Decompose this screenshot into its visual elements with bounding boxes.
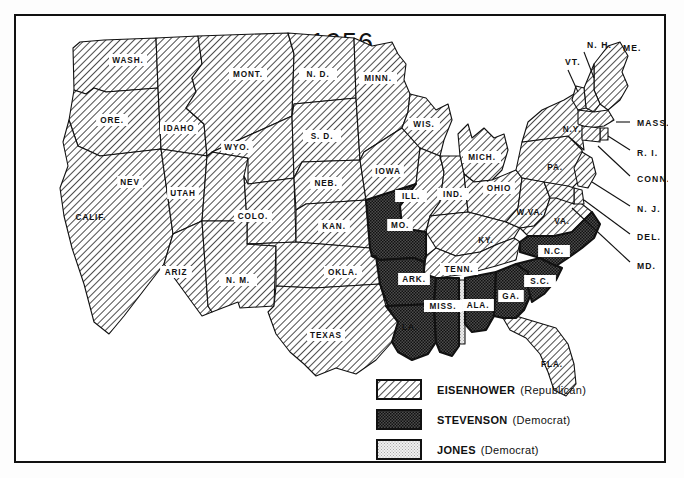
state-label-text: LA. [402,323,418,332]
state-label-text: WIS. [413,120,434,129]
state-label-pa: PA. [547,163,563,172]
legend-swatch-jones [377,440,421,459]
state-del[interactable] [574,188,584,204]
state-label-okla: OKLA. [324,266,362,278]
state-label-text: N.Y. [563,125,582,134]
state-miss[interactable] [434,278,459,356]
state-label-text: KAN. [322,222,346,231]
legend-candidate: JONES [437,443,476,455]
legend-row-jones[interactable]: JONES(Democrat) [377,440,539,459]
callout-label-nj: N. J. [637,204,661,214]
legend-party: (Republican) [520,383,586,395]
legend-candidate: STEVENSON [437,413,508,425]
state-label-iowa: IOWA [372,165,404,177]
state-label-text: UTAH [170,189,196,198]
state-label-la: LA. [402,323,418,332]
state-label-text: OKLA. [328,268,358,277]
state-label-ariz: ARIZ [160,266,192,278]
state-label-mich: MICH. [463,151,501,163]
legend-candidate: EISENHOWER [437,383,515,395]
state-label-ark: ARK. [398,273,430,285]
state-label-text: MICH. [468,153,496,162]
state-label-nm: N. M. [219,274,257,286]
state-label-text: S.C. [530,277,550,286]
state-label-neb: NEB. [310,177,342,189]
state-label-text: ALA. [467,301,490,310]
state-label-text: TEXAS [310,331,342,340]
callout-label-md: MD. [637,261,656,271]
state-label-nc: N.C. [538,245,570,257]
state-mass[interactable] [578,110,614,128]
state-label-text: WASH. [112,56,143,65]
state-label-text: IND. [443,190,463,199]
state-label-mo: MO. [387,219,413,231]
state-label-texas: TEXAS [307,329,345,341]
state-label-calif: CALIF. [76,213,107,222]
state-label-text: ARK. [402,275,426,284]
legend-row-eisenhower[interactable]: EISENHOWER(Republican) [377,380,586,399]
state-label-text: COLO. [238,212,268,221]
callout-line-nj [592,182,630,206]
state-label-text: OHIO [487,184,512,193]
state-label-text: S. D. [311,132,334,141]
legend-label-jones: JONES(Democrat) [437,443,539,455]
callout-label-nh: N. H. [587,40,612,50]
state-label-nd: N. D. [299,68,337,80]
state-label-va: VA. [554,217,570,226]
state-label-text: TENN. [444,265,473,274]
legend-label-stevenson: STEVENSON(Democrat) [437,413,571,425]
state-label-text: CALIF. [76,213,107,222]
state-ri[interactable] [600,128,608,140]
state-label-sd: S. D. [303,130,341,142]
legend-swatch-stevenson [377,410,421,429]
state-label-text: ILL. [402,192,420,201]
state-label-text: N. M. [226,276,250,285]
state-label-text: MO. [391,221,409,230]
callout-label-mass: MASS. [637,118,668,128]
state-label-text: PA. [547,163,563,172]
state-label-ore: ORE. [96,114,128,126]
state-label-text: NEB. [314,179,337,188]
legend: EISENHOWER(Republican)STEVENSON(Democrat… [357,368,657,468]
legend-svg: EISENHOWER(Republican)STEVENSON(Democrat… [357,368,657,468]
state-label-text: MISS. [430,302,457,311]
state-label-kan: KAN. [318,220,350,232]
map-figure: 1956 [0,0,684,478]
state-label-tenn: TENN. [440,263,478,275]
state-label-text: IDAHO [164,124,195,133]
state-label-ga: GA. [498,290,524,302]
legend-row-stevenson[interactable]: STEVENSON(Democrat) [377,410,571,429]
state-label-minn: MINN. [359,72,397,84]
state-label-text: IOWA [375,167,400,176]
state-label-wyo: WYO. [221,141,253,153]
state-label-wis: WIS. [408,118,440,130]
state-label-nev: NEV [117,176,143,188]
state-label-text: W.VA. [516,208,543,217]
state-label-ohio: OHIO [483,182,515,194]
state-label-text: N. D. [306,70,329,79]
legend-label-eisenhower: EISENHOWER(Republican) [437,383,586,395]
state-label-idaho: IDAHO [160,122,198,134]
state-label-ny: N.Y. [563,125,582,134]
state-label-utah: UTAH [167,187,199,199]
state-label-text: MINN. [364,74,392,83]
figure-frame: 1956 [14,14,666,463]
legend-party: (Democrat) [481,443,539,455]
callout-label-me: ME. [623,43,642,53]
callout-line-nh [584,52,594,78]
state-label-ala: ALA. [462,299,494,311]
state-label-sc: S.C. [524,275,556,287]
state-label-text: WYO. [224,143,249,152]
state-label-ky: KY. [478,236,493,245]
callout-label-vt: VT. [565,57,581,67]
callout-line-vt [568,70,578,92]
state-conn[interactable] [582,126,600,142]
callout-line-ri [608,136,630,150]
callout-line-conn [598,146,630,176]
state-label-text: ARIZ [165,268,188,277]
state-label-miss: MISS. [424,300,462,312]
state-label-text: VA. [554,217,570,226]
state-label-text: NEV [120,178,140,187]
legend-party: (Democrat) [513,413,571,425]
state-label-text: GA. [502,292,519,301]
